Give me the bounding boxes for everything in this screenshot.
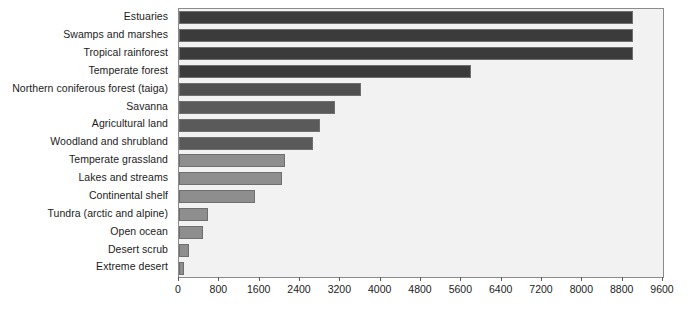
x-tick-mark: [501, 277, 502, 281]
bar-chart: EstuariesSwamps and marshesTropical rain…: [0, 0, 697, 309]
x-tick-label: 5600: [449, 283, 472, 295]
bar: [179, 119, 320, 132]
category-label: Estuaries: [124, 8, 168, 25]
x-tick-mark: [299, 277, 300, 281]
category-axis: EstuariesSwamps and marshesTropical rain…: [0, 8, 173, 276]
x-tick-label: 800: [210, 283, 228, 295]
category-label: Desert scrub: [108, 241, 168, 258]
category-label: Northern coniferous forest (taiga): [12, 80, 168, 97]
category-label: Lakes and streams: [78, 169, 168, 186]
bar: [179, 172, 282, 185]
x-tick-label: 1600: [247, 283, 270, 295]
bar: [179, 226, 203, 239]
bar: [179, 244, 189, 257]
x-tick-mark: [420, 277, 421, 281]
x-tick-label: 9600: [650, 283, 673, 295]
category-label: Agricultural land: [92, 115, 168, 132]
x-tick-mark: [218, 277, 219, 281]
x-tick-label: 8000: [570, 283, 593, 295]
bar: [179, 137, 313, 150]
x-tick-label: 4800: [408, 283, 431, 295]
x-tick-label: 6400: [489, 283, 512, 295]
x-tick-mark: [662, 277, 663, 281]
x-tick-label: 4000: [368, 283, 391, 295]
x-tick-mark: [380, 277, 381, 281]
category-label: Open ocean: [110, 223, 168, 240]
x-tick-mark: [581, 277, 582, 281]
x-axis: 0800160024003200400048005600640072008000…: [178, 277, 664, 307]
plot-area: [178, 8, 664, 278]
category-label: Tundra (arctic and alpine): [47, 205, 168, 222]
x-tick-label: 2400: [287, 283, 310, 295]
category-label: Continental shelf: [89, 187, 168, 204]
category-label: Tropical rainforest: [83, 44, 168, 61]
bar: [179, 154, 285, 167]
bar: [179, 190, 255, 203]
bar: [179, 101, 335, 114]
category-label: Temperate forest: [88, 62, 168, 79]
x-tick-mark: [339, 277, 340, 281]
bar: [179, 47, 633, 60]
category-label: Savanna: [126, 98, 168, 115]
x-tick-mark: [460, 277, 461, 281]
x-tick-label: 0: [175, 283, 181, 295]
bar: [179, 262, 184, 275]
bar: [179, 208, 208, 221]
bars-container: [179, 9, 663, 277]
x-tick-label: 7200: [529, 283, 552, 295]
category-label: Woodland and shrubland: [50, 133, 168, 150]
x-tick-label: 3200: [328, 283, 351, 295]
x-tick-mark: [541, 277, 542, 281]
x-tick-mark: [622, 277, 623, 281]
bar: [179, 29, 633, 42]
category-label: Extreme desert: [96, 258, 168, 275]
category-label: Swamps and marshes: [63, 26, 168, 43]
bar: [179, 83, 361, 96]
x-tick-mark: [178, 277, 179, 281]
x-tick-label: 8800: [610, 283, 633, 295]
x-tick-mark: [259, 277, 260, 281]
bar: [179, 11, 633, 24]
category-label: Temperate grassland: [69, 151, 168, 168]
bar: [179, 65, 471, 78]
